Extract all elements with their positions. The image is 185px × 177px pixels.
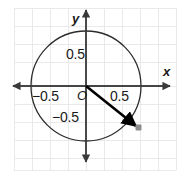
y-tick-label-positive: 0.5 bbox=[66, 47, 85, 61]
y-tick-label-negative: −0.5 bbox=[52, 110, 79, 124]
origin-label: O bbox=[77, 89, 87, 102]
x-tick-label-positive: 0.5 bbox=[110, 89, 129, 103]
coordinate-plane-svg bbox=[0, 0, 185, 177]
x-axis-label: x bbox=[163, 65, 170, 78]
x-tick-label-negative: −0.5 bbox=[32, 89, 59, 103]
unit-circle-figure: y x 0.5 −0.5 O 0.5 −0.5 bbox=[0, 0, 185, 177]
y-axis-label: y bbox=[72, 12, 79, 25]
terminal-point-marker bbox=[136, 125, 142, 131]
